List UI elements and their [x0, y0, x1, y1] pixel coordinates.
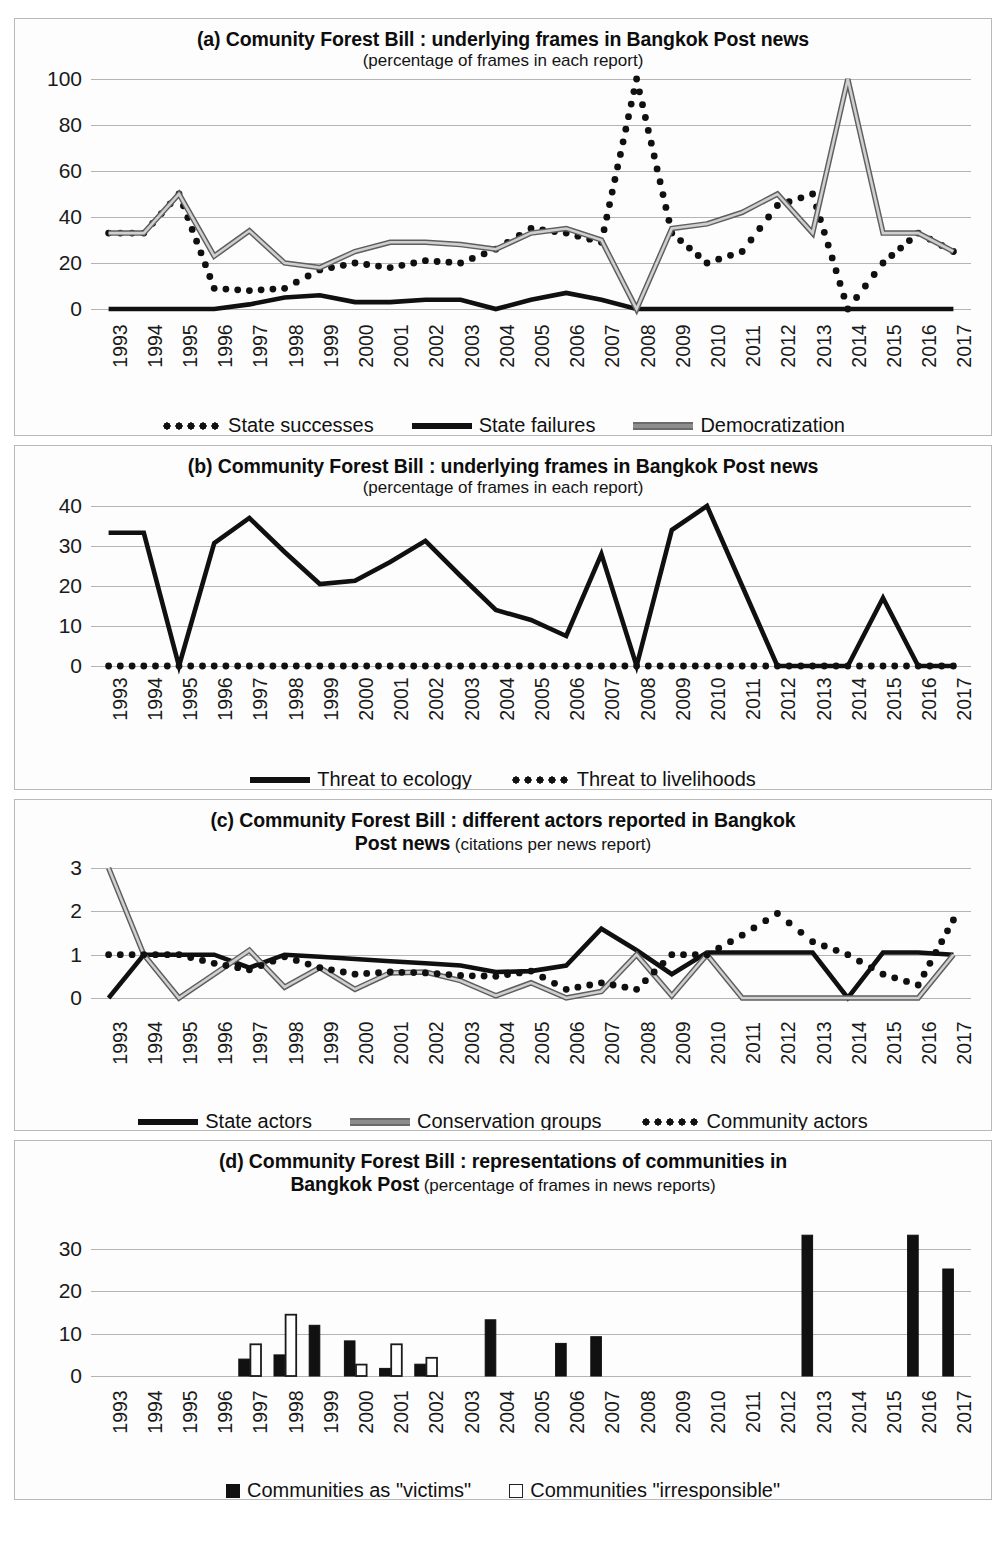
series-solid-state-failures	[109, 293, 954, 309]
y-axis-tick: 3	[70, 856, 82, 880]
y-axis-tick: 20	[59, 1279, 82, 1303]
legend-item[interactable]: Threat to ecology	[250, 768, 472, 790]
bar	[286, 1315, 297, 1376]
panel-d-title-block: (d) Community Forest Bill : representati…	[15, 1141, 991, 1196]
x-axis-tick: 2002	[425, 677, 448, 720]
x-axis-tick: 2007	[601, 1021, 624, 1064]
x-axis-tick: 2005	[531, 324, 554, 367]
legend-item[interactable]: Communities as "victims"	[226, 1479, 471, 1500]
panel-c-x-axis: 1993199419951996199719981999200020012002…	[15, 1040, 991, 1110]
x-axis-tick: 1999	[320, 1390, 343, 1433]
series-dotted-state-successes	[105, 76, 957, 313]
x-axis-tick: 2004	[496, 1021, 519, 1064]
panel-b-title: (b) Community Forest Bill : underlying f…	[15, 455, 991, 478]
legend-item[interactable]: Democratization	[633, 414, 845, 436]
y-axis-tick: 40	[59, 205, 82, 229]
legend-item[interactable]: Community actors	[640, 1110, 868, 1131]
x-axis-tick: 2001	[390, 677, 413, 720]
series-gray-outline-conservation-groups	[109, 868, 954, 998]
panel-c-subtitle: (citations per news report)	[455, 835, 652, 854]
x-axis-tick: 2013	[813, 324, 836, 367]
x-axis-tick: 2004	[496, 324, 519, 367]
bar	[239, 1359, 250, 1376]
x-axis-tick: 2017	[953, 1021, 976, 1064]
x-axis-tick: 1993	[109, 1390, 132, 1433]
x-axis-tick: 2014	[848, 677, 871, 720]
x-axis-tick: 1995	[179, 677, 202, 720]
panel-c-title-bold2: Post news	[355, 832, 451, 854]
x-axis-tick: 2010	[707, 1021, 730, 1064]
legend-swatch-open-square-icon	[509, 1484, 523, 1498]
series-gray-outline-democratization	[109, 79, 954, 309]
y-axis-tick: 30	[59, 534, 82, 558]
panel-b: (b) Community Forest Bill : underlying f…	[14, 445, 992, 790]
series-canvas	[91, 868, 971, 1000]
x-axis-tick: 2015	[883, 1021, 906, 1064]
x-axis-tick: 2011	[742, 1022, 765, 1064]
y-axis-tick: 20	[59, 251, 82, 275]
x-axis-tick: 2009	[672, 1021, 695, 1064]
series-solid-state-actors	[109, 929, 954, 998]
y-axis-tick: 0	[70, 654, 82, 678]
x-axis-tick: 2002	[425, 1021, 448, 1064]
x-axis-tick: 2013	[813, 1021, 836, 1064]
series-canvas	[91, 79, 971, 311]
x-axis-tick: 1998	[285, 1021, 308, 1064]
legend-item[interactable]: State successes	[161, 414, 374, 436]
x-axis-tick: 2010	[707, 1390, 730, 1433]
bar	[802, 1235, 813, 1376]
x-axis-tick: 1995	[179, 1390, 202, 1433]
legend-label: State failures	[479, 414, 596, 436]
legend-swatch-gray-line-icon	[633, 422, 693, 430]
legend-item[interactable]: Communities "irresponsible"	[509, 1479, 780, 1500]
x-axis-tick: 1994	[144, 324, 167, 367]
bar	[344, 1341, 355, 1376]
x-axis-tick: 2006	[566, 1021, 589, 1064]
series-canvas	[91, 506, 971, 668]
panel-d-legend: Communities as "victims"Communities "irr…	[15, 1479, 991, 1500]
bar	[309, 1325, 320, 1376]
x-axis-tick: 2003	[461, 324, 484, 367]
x-axis-tick: 2006	[566, 677, 589, 720]
x-axis-tick: 2004	[496, 1390, 519, 1433]
x-axis-tick: 1999	[320, 1021, 343, 1064]
y-axis-tick: 60	[59, 159, 82, 183]
y-axis-tick: 2	[70, 899, 82, 923]
bar	[391, 1344, 402, 1376]
x-axis-tick: 2017	[953, 324, 976, 367]
panel-d-title-bold2: Bangkok Post	[290, 1173, 419, 1195]
x-axis-tick: 1993	[109, 1021, 132, 1064]
panel-c-legend: State actorsConservation groupsCommunity…	[15, 1110, 991, 1131]
x-axis-tick: 1995	[179, 324, 202, 367]
x-axis-tick: 2012	[777, 324, 800, 367]
panel-a-x-axis: 1993199419951996199719981999200020012002…	[15, 343, 991, 413]
x-axis-tick: 2012	[777, 1390, 800, 1433]
legend-label: Threat to livelihoods	[577, 768, 756, 790]
legend-label: Democratization	[700, 414, 845, 436]
x-axis-tick: 1998	[285, 324, 308, 367]
bars-canvas	[91, 1228, 971, 1378]
legend-swatch-filled-square-icon	[226, 1484, 240, 1498]
x-axis-tick: 1997	[249, 1021, 272, 1064]
x-axis-tick: 2014	[848, 1390, 871, 1433]
panel-b-title-block: (b) Community Forest Bill : underlying f…	[15, 446, 991, 498]
legend-item[interactable]: State actors	[138, 1110, 312, 1131]
x-axis-tick: 2015	[883, 1390, 906, 1433]
y-axis-tick: 20	[59, 574, 82, 598]
bar	[356, 1365, 367, 1376]
legend-item[interactable]: Conservation groups	[350, 1110, 602, 1131]
x-axis-tick: 2011	[742, 678, 765, 720]
x-axis-tick: 2016	[918, 677, 941, 720]
x-axis-tick: 2003	[461, 1390, 484, 1433]
legend-label: Communities "irresponsible"	[530, 1479, 780, 1500]
x-axis-tick: 2007	[601, 677, 624, 720]
y-axis-tick: 0	[70, 1364, 82, 1388]
x-axis-tick: 2015	[883, 677, 906, 720]
x-axis-tick: 2011	[742, 325, 765, 367]
legend-item[interactable]: State failures	[412, 414, 596, 436]
x-axis-tick: 2005	[531, 1021, 554, 1064]
x-axis-tick: 1994	[144, 1021, 167, 1064]
x-axis-tick: 2017	[953, 1390, 976, 1433]
panel-d: (d) Community Forest Bill : representati…	[14, 1140, 992, 1500]
legend-item[interactable]: Threat to livelihoods	[510, 768, 756, 790]
